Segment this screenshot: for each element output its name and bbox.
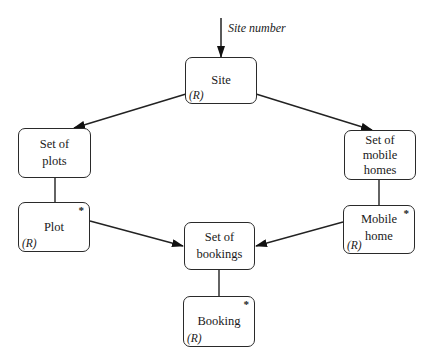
node-set-of-bookings: Set of bookings [184,222,255,270]
node-label: Set of mobile homes [363,133,398,178]
iteration-star-icon: * [79,204,85,216]
node-label: Mobile home [361,211,397,245]
iteration-star-icon: * [404,207,410,219]
node-site: Site (R) [185,57,257,104]
node-plot: Plot * (R) [18,202,90,252]
recursion-marker: (R) [22,237,37,249]
node-label: Site [211,72,230,89]
edge-mobile-home-to-set-of-bookings [256,222,343,246]
node-booking: Booking * (R) [183,296,255,347]
site-number-input-label: Site number [228,21,286,36]
recursion-marker: (R) [347,239,362,251]
recursion-marker: (R) [189,89,204,101]
edge-plot-to-set-of-bookings [90,221,183,246]
node-mobile-home: Mobile home * (R) [343,205,415,254]
node-label: Set of bookings [197,229,243,263]
edge-site-to-set-of-mobile-homes [256,94,372,130]
node-set-of-plots: Set of plots [18,128,91,178]
iteration-star-icon: * [244,298,250,310]
node-label: Booking [197,313,240,330]
edge-site-to-set-of-plots [74,94,186,128]
node-set-of-mobile-homes: Set of mobile homes [344,130,416,180]
recursion-marker: (R) [187,332,202,344]
node-label: Plot [44,219,64,236]
node-label: Set of plots [40,136,70,170]
